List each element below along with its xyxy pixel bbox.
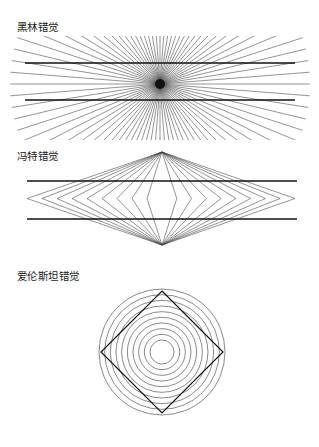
hering-illusion-figure — [0, 36, 319, 140]
ehrenstein-inscribed-square — [101, 291, 223, 413]
wundt-parallel-lines — [27, 181, 297, 219]
ehrenstein-illusion-figure — [0, 286, 319, 420]
figure-label-hering: 黑林错觉 — [17, 21, 59, 33]
wundt-nested-diamonds — [27, 152, 295, 245]
illustration-page: 黑林错觉 冯特错觉 爱伦斯坦错觉 — [0, 0, 319, 447]
figure-label-ehrenstein: 爱伦斯坦错觉 — [17, 270, 79, 282]
wundt-illusion-figure — [0, 146, 319, 252]
hering-center-dot — [155, 79, 165, 89]
ehrenstein-concentric-circles — [99, 289, 225, 415]
